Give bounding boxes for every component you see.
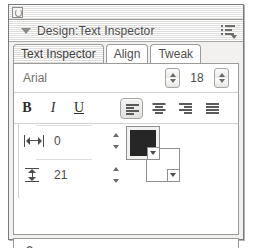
tab-text-inspector[interactable]: Text Inspector [13, 44, 104, 63]
tab-strip: Text Inspector Align Tweak [9, 42, 243, 63]
tracking-underline [36, 159, 92, 160]
tracking-topline [36, 125, 92, 126]
tracking-field[interactable]: 0 [48, 134, 110, 148]
palette-footer [13, 238, 239, 248]
tab-tweak[interactable]: Tweak [150, 44, 201, 63]
font-stepper[interactable] [165, 68, 180, 88]
collapse-box-button[interactable] [12, 7, 23, 18]
align-center-button[interactable] [147, 98, 170, 119]
tab-align[interactable]: Align [106, 44, 149, 63]
underline-button[interactable]: U [66, 100, 92, 116]
leading-field[interactable]: 21 [48, 168, 110, 182]
italic-button[interactable]: I [40, 100, 66, 116]
style-row: B I U [14, 93, 238, 124]
tracking-icon [22, 133, 48, 149]
font-size-field[interactable]: 18 [180, 71, 214, 85]
align-justify-button[interactable] [201, 98, 224, 119]
text-color-swatch[interactable] [126, 126, 160, 160]
link-chain-icon[interactable] [23, 244, 43, 248]
leading-stepper[interactable] [110, 164, 122, 186]
leading-icon [22, 167, 48, 183]
tracking-stepper[interactable] [110, 130, 122, 152]
text-inspector-palette: Design:Text Inspector Text Inspector Ali… [8, 4, 244, 240]
disclosure-triangle-down-icon[interactable] [21, 28, 31, 34]
size-stepper[interactable] [214, 68, 229, 88]
align-right-button[interactable] [174, 98, 197, 119]
font-row: Arial 18 [14, 64, 238, 93]
window-grab-strip[interactable] [9, 5, 243, 20]
font-family-field[interactable]: Arial [14, 71, 165, 85]
inspector-panel: Arial 18 B I U [13, 63, 239, 235]
align-left-button[interactable] [120, 98, 143, 119]
palette-title-bar[interactable]: Design:Text Inspector [9, 20, 243, 42]
list-menu-icon[interactable] [221, 24, 236, 38]
palette-title: Design:Text Inspector [37, 24, 155, 38]
bold-button[interactable]: B [14, 100, 40, 116]
alignment-group [120, 98, 228, 119]
color-swatch-group [126, 126, 182, 184]
